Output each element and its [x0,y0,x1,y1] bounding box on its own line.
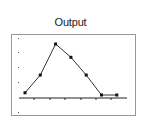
data-point-marker [115,94,118,97]
data-point-marker [85,74,88,77]
data-point-marker [39,74,42,77]
series-line [25,44,117,95]
y-ticks [18,38,19,113]
data-series [24,43,119,97]
data-point-marker [69,56,72,59]
line-chart [0,0,141,122]
plot-frame [12,35,136,116]
data-point-marker [24,91,27,94]
data-point-marker [100,94,103,97]
data-point-marker [54,43,57,46]
